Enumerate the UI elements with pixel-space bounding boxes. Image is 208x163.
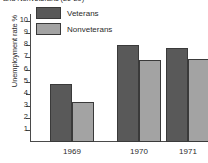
legend-swatch-nonveterans — [36, 23, 61, 35]
y-tick-label: 2 — [24, 113, 28, 121]
y-tick-label: 8 — [24, 40, 28, 48]
bar-1969-veterans — [50, 84, 72, 142]
y-tick-label: 9 — [24, 28, 28, 36]
legend-label-nonveterans: Nonveterans — [67, 25, 112, 34]
y-tick-label: 1 — [24, 125, 28, 133]
y-tick-label: 7 — [24, 52, 28, 60]
y-tick-label: 4 — [24, 89, 28, 97]
page-title: and Nonveterans (20-29) — [3, 0, 203, 3]
y-tick-label: 3 — [24, 101, 28, 109]
x-tick-label: 1970 — [111, 147, 167, 156]
y-tick-label: 6 — [24, 65, 28, 73]
bar-1969-nonveterans — [72, 102, 94, 142]
bar-1971-veterans — [166, 48, 188, 142]
bar-1971-nonveterans — [188, 59, 208, 142]
bar-1970-veterans — [117, 45, 139, 142]
bar-1970-nonveterans — [139, 60, 161, 142]
y-tick-label: 10 — [20, 16, 28, 24]
x-tick-label: 1971 — [160, 147, 208, 156]
legend-label-veterans: Veterans — [67, 9, 99, 18]
x-tick-label: 1969 — [44, 147, 100, 156]
y-axis-label: Unemployment rate % — [11, 3, 19, 99]
y-tick-label: 5 — [24, 77, 28, 85]
legend-swatch-veterans — [36, 7, 61, 19]
y-axis-line — [30, 14, 31, 142]
bar-chart-figure: and Nonveterans (20-29) Unemployment rat… — [0, 0, 208, 163]
